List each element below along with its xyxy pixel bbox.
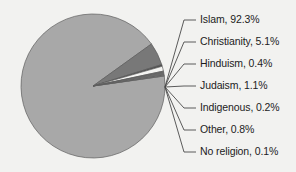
slice-label: Hinduism, 0.4%	[200, 57, 272, 69]
slice-label: Islam, 92.3%	[200, 13, 260, 25]
slice-label: No religion, 0.1%	[200, 145, 278, 157]
chart-svg: Islam, 92.3%Christianity, 5.1%Hinduism, …	[0, 0, 296, 172]
pie-chart-figure: Islam, 92.3%Christianity, 5.1%Hinduism, …	[0, 0, 296, 172]
pie-slices-group	[21, 14, 165, 158]
slice-label: Christianity, 5.1%	[200, 35, 279, 47]
slice-label: Judaism, 1.1%	[200, 79, 268, 91]
slice-label: Other, 0.8%	[200, 123, 254, 135]
slice-label: Indigenous, 0.2%	[200, 101, 280, 113]
